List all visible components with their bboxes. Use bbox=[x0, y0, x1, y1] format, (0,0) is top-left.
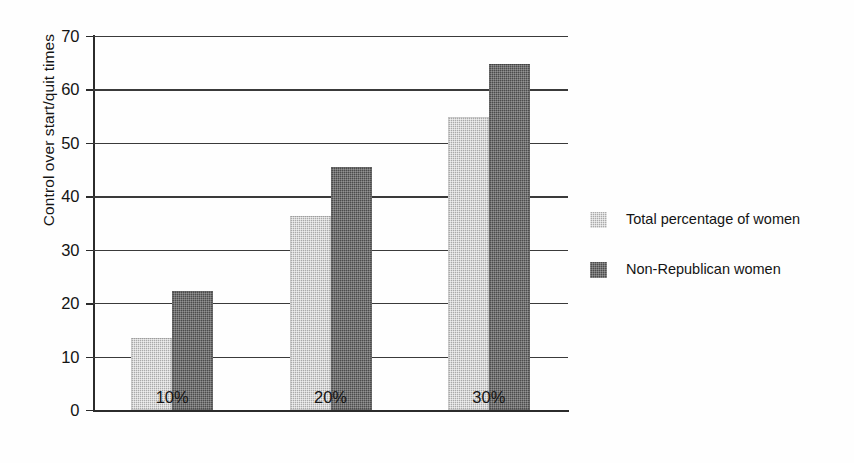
y-tick-40 bbox=[86, 196, 93, 197]
y-tick-30 bbox=[86, 250, 93, 251]
x-tick-label-30pct: 30% bbox=[472, 388, 505, 407]
y-tick-label-40: 40 bbox=[61, 188, 83, 205]
plot-area: 010203040506070 bbox=[93, 36, 568, 410]
legend-item-label: Non-Republican women bbox=[626, 261, 781, 277]
y-tick-70 bbox=[86, 36, 93, 37]
bar-20pct-series1 bbox=[290, 216, 331, 410]
y-tick-60 bbox=[86, 89, 93, 90]
light-gray-swatch-icon bbox=[590, 212, 607, 228]
bar-30pct-series1 bbox=[448, 117, 489, 410]
y-tick-label-60: 60 bbox=[61, 81, 83, 98]
y-tick-label-30: 30 bbox=[61, 241, 83, 258]
y-tick-0 bbox=[86, 410, 93, 411]
x-tick-label-20pct: 20% bbox=[314, 388, 347, 407]
bar-chart: Control over start/quit times 0102030405… bbox=[0, 0, 854, 463]
y-tick-label-50: 50 bbox=[61, 135, 83, 152]
y-tick-label-0: 0 bbox=[70, 402, 83, 419]
y-tick-label-10: 10 bbox=[61, 348, 83, 365]
y-tick-label-20: 20 bbox=[61, 295, 83, 312]
x-axis-line bbox=[93, 410, 569, 412]
y-axis-line bbox=[93, 35, 95, 411]
x-tick-label-10pct: 10% bbox=[156, 388, 189, 407]
bar-30pct-series2 bbox=[489, 64, 530, 410]
bar-20pct-series2 bbox=[331, 167, 372, 410]
y-tick-50 bbox=[86, 143, 93, 144]
legend-item-label: Total percentage of women bbox=[626, 211, 800, 227]
y-tick-20 bbox=[86, 303, 93, 304]
y-tick-10 bbox=[86, 357, 93, 358]
dark-gray-swatch-icon bbox=[590, 262, 607, 278]
y-tick-label-70: 70 bbox=[61, 28, 83, 45]
gridline-70 bbox=[93, 36, 568, 37]
